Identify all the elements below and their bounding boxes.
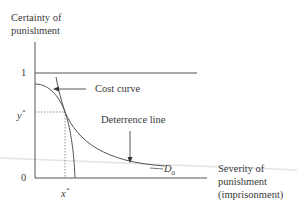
deterrence-arrow-head xyxy=(128,157,133,163)
x-star-label: x* xyxy=(61,184,69,200)
y-tick-zero: 0 xyxy=(21,172,26,184)
y-tick-one: 1 xyxy=(21,67,26,79)
y-star-label: y* xyxy=(17,106,25,122)
x-axis-label-line1: Severity of xyxy=(218,163,264,175)
cost-curve xyxy=(35,84,75,178)
y-axis-label-line2: punishment xyxy=(11,25,60,37)
x-axis-label-line3: (imprisonment) xyxy=(218,189,283,201)
d0-leader-line xyxy=(150,168,163,169)
cost-curve-arrow-head xyxy=(53,87,59,92)
y-axis-label-line1: Certainty of xyxy=(11,12,61,24)
d0-label: D0 xyxy=(164,163,175,179)
x-axis-label-line2: punishment xyxy=(218,176,267,188)
cost-curve-label: Cost curve xyxy=(95,83,140,95)
deterrence-line-label: Deterrence line xyxy=(101,114,165,126)
